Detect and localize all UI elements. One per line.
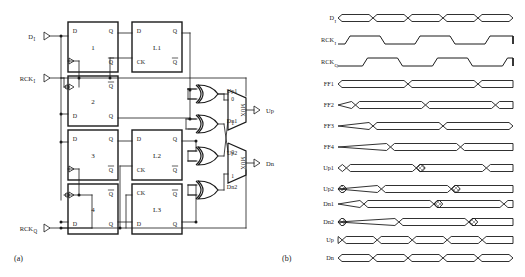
timing-signal-dn1-lower xyxy=(504,204,513,208)
timing-signal-up-lower xyxy=(377,240,412,244)
timing-signal-up-lower xyxy=(412,240,447,244)
ff-1-name: 1 xyxy=(91,44,95,52)
timing-signal-up2: Up2 xyxy=(323,185,513,192)
timing-signal-rck-q-label-text: RCK xyxy=(321,58,334,65)
timing-signal-d-i-upper xyxy=(338,15,373,19)
mux-up-sel-0: 0 xyxy=(231,96,234,102)
timing-signal-ff1-upper xyxy=(408,81,478,85)
timing-signal-ff4-label: FF4 xyxy=(324,143,335,150)
input-rcki-label-text: RCK xyxy=(20,75,34,82)
timing-signal-dn-lower xyxy=(408,258,443,262)
input-rckq-label-sub: Q xyxy=(34,228,38,234)
output-up-label: Up xyxy=(266,107,274,114)
timing-signal-dn-upper xyxy=(373,255,408,259)
input-rcki-label: RCKI xyxy=(20,75,36,84)
timing-signal-ff3-upper xyxy=(373,123,443,127)
timing-signal-dn-label: Dn xyxy=(326,254,335,261)
timing-signal-up1-upper xyxy=(416,165,486,169)
input-rcki-buffer-triangle xyxy=(44,74,50,82)
timing-signal-dn-lower xyxy=(338,258,373,262)
timing-signal-up2-label: Up2 xyxy=(323,185,334,192)
timing-signal-ff2-lower xyxy=(338,105,356,109)
input-di: DI xyxy=(28,32,61,42)
timing-signal-ff1-lower xyxy=(408,84,478,88)
timing-signal-up1-lower xyxy=(338,168,346,172)
input-di-label-sub: I xyxy=(34,36,36,42)
latch-l2-pin-qbar: Q xyxy=(173,167,178,173)
timing-signal-ff2-label: FF2 xyxy=(324,101,334,108)
timing-signal-up-upper xyxy=(412,237,447,241)
timing-signal-dn-upper xyxy=(443,255,478,259)
input-rcki-label-sub: I xyxy=(34,78,36,84)
timing-signal-dn2-label: Dn2 xyxy=(323,218,334,225)
timing-signal-up: Up xyxy=(326,236,513,243)
xor-dn2: Dn2 xyxy=(188,181,237,199)
ff-3-pin-d: D xyxy=(73,136,78,142)
latch-l2-pin-q: Q xyxy=(173,136,178,142)
latch-l1: L1DQCKQ xyxy=(132,22,182,72)
ff-1: 1DQQ xyxy=(68,22,118,72)
timing-signal-ff3-lower xyxy=(338,126,373,130)
timing-signal-up2-label-text: Up2 xyxy=(323,185,334,192)
timing-signal-ff2-upper xyxy=(426,102,496,106)
timing-signal-rck-q-label: RCKQ xyxy=(321,58,339,67)
timing-signal-up1-hatch-cell xyxy=(416,165,425,172)
timing-signal-up1-label-text: Up1 xyxy=(323,164,334,171)
timing-signal-d-i-lower xyxy=(408,18,443,22)
mux-up-sel-1: 1 xyxy=(231,120,234,126)
ff-3-name: 3 xyxy=(91,152,95,160)
timing-signal-ff2-lower xyxy=(356,105,426,109)
timing-signal-rck-i: RCKI xyxy=(321,36,513,46)
timing-signal-ff2-lower xyxy=(426,105,496,109)
junction-x3 xyxy=(195,140,198,143)
panel-a-caption: (a) xyxy=(14,254,23,263)
ff-4-pin-d: D xyxy=(73,221,78,227)
timing-signal-up2-hatch-cell xyxy=(451,186,460,193)
timing-signal-d-i-lower xyxy=(443,18,478,22)
junction-di-ff2 xyxy=(60,113,63,116)
timing-signal-up1-lower xyxy=(486,168,513,172)
ff-1-pin-q: Q xyxy=(109,28,114,34)
timing-signal-ff2-upper xyxy=(496,102,514,106)
timing-signal-ff2-lower xyxy=(496,105,514,109)
timing-signal-ff4-upper xyxy=(338,144,391,148)
figure-container: DIRCKIRCKQ1DQQ2QDQ3DQQ4QDQL1DQCKQL2DQCKQ… xyxy=(0,0,525,277)
timing-signal-up1-lower xyxy=(416,168,486,172)
timing-signal-dn2-lower xyxy=(338,222,399,226)
ff-2-name: 2 xyxy=(91,98,95,106)
timing-signal-ff1: FF1 xyxy=(324,80,513,87)
output-up-triangle xyxy=(254,106,260,114)
timing-signal-rck-q-wave xyxy=(338,58,513,66)
timing-signal-dn-lower xyxy=(443,258,478,262)
timing-signal-dn2-hatch-cell xyxy=(469,219,478,226)
junction-di-ff3 xyxy=(60,141,63,144)
timing-signal-ff4-lower xyxy=(461,147,514,151)
junction-rckq-ff3 xyxy=(78,194,81,197)
timing-signal-dn1-lower xyxy=(364,204,434,208)
ff-1-pin-qbar: Q xyxy=(109,59,114,65)
panel-b-timing: DIRCKIRCKQFF1FF2FF3FF4Up1Up2Dn1Dn2UpDn xyxy=(321,14,513,261)
timing-signal-ff3: FF3 xyxy=(324,122,513,129)
ff-4-pin-q: Q xyxy=(109,221,114,227)
timing-signal-up-label-text: Up xyxy=(326,236,334,243)
timing-signal-up1-label: Up1 xyxy=(323,164,334,171)
latch-l3: L3CKQDQ xyxy=(132,184,182,234)
timing-signal-dn1-hatch-cell xyxy=(434,201,443,208)
timing-signal-dn-label-text: Dn xyxy=(326,254,335,261)
timing-signal-ff4: FF4 xyxy=(324,143,513,150)
timing-signal-ff1-upper xyxy=(338,81,408,85)
timing-signal-dn1-upper xyxy=(434,201,504,205)
input-rckq-label: RCKQ xyxy=(20,225,38,234)
ff-4: 4QDQ xyxy=(65,184,118,234)
timing-signal-d-i-lower xyxy=(478,18,513,22)
timing-signal-rck-i-wave xyxy=(338,36,513,44)
timing-signal-dn1-upper xyxy=(504,201,513,205)
timing-signal-dn-upper xyxy=(408,255,443,259)
latch-l1-pin-qbar: Q xyxy=(173,59,178,65)
output-dn-label: Dn xyxy=(266,160,275,167)
timing-signal-rck-i-label-text: RCK xyxy=(321,36,334,43)
mux-dn-sel-0: 0 xyxy=(231,149,234,155)
timing-signal-up-upper xyxy=(482,237,513,241)
latch-l3-pin-qbar: Q xyxy=(173,191,178,197)
output-dn-triangle xyxy=(254,159,260,167)
